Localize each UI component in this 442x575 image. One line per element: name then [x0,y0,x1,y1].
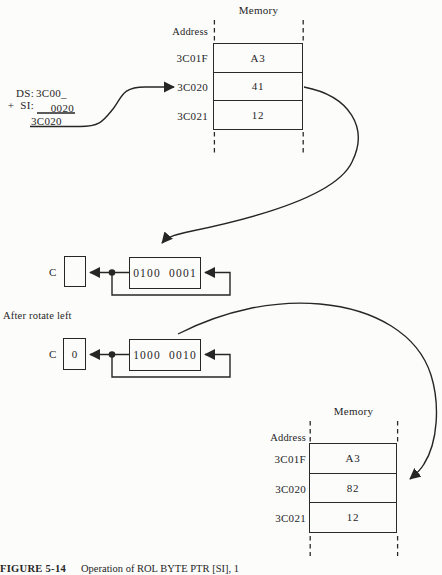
memory-row: A3 [214,44,302,72]
memory-cell-value: 41 [252,80,265,92]
register-box-after: 1000 0010 [129,339,201,371]
memory-top-table: A3 41 12 [213,43,303,130]
memory-top-address-0: 3C01F [156,52,208,64]
carry-box-after: 0 [63,338,86,370]
branch-dot-before [109,269,116,276]
ds-label: DS: [6,87,34,99]
memory-cell-value: 12 [347,511,360,523]
after-rotate-label: After rotate left [3,310,72,322]
carry-value-after: 0 [72,348,78,360]
si-label: + SI: [4,99,34,111]
memory-bottom-title: Memory [309,405,398,417]
memory-cell-value: 82 [347,482,360,494]
register-bits-after: 1000 0010 [133,349,197,361]
effective-address-sum: 3C020 [31,115,62,127]
memory-bottom-table: A3 82 12 [309,443,397,533]
memory-row: 82 [310,473,396,503]
memory-row: A3 [310,444,396,473]
ds-value: 3C00_ [36,87,67,99]
memory-top-title: Memory [213,4,304,16]
carry-box-before [64,256,86,287]
figure-caption: FIGURE 5-14 Operation of ROL BYTE PTR [S… [0,562,442,575]
memory-cell-value: A3 [250,52,265,64]
arrow-register-to-memory [178,303,436,479]
register-box-before: 0100 0001 [129,257,201,289]
figure-caption-number: FIGURE 5-14 [0,562,66,575]
register-bits-before: 0100 0001 [133,267,197,279]
memory-top-address-2: 3C021 [156,110,208,122]
memory-row: 12 [214,100,302,129]
memory-bottom-address-0: 3C01F [254,453,306,465]
memory-row: 41 [214,72,302,101]
memory-top-address-label: Address [156,26,208,38]
figure-caption-text: Operation of ROL BYTE PTR [SI], 1 [81,562,239,575]
memory-bottom-address-label: Address [254,432,306,444]
branch-dot-after [109,351,116,358]
carry-label-before: C [49,266,57,278]
memory-bottom-address-1: 3C020 [254,483,306,495]
si-value: 0020 [36,102,74,114]
memory-top-address-1: 3C020 [156,81,208,93]
memory-cell-value: 12 [252,109,265,121]
carry-label-after: C [49,348,57,360]
memory-bottom-address-2: 3C021 [254,512,306,524]
memory-row: 12 [310,502,396,532]
memory-cell-value: A3 [345,452,360,464]
